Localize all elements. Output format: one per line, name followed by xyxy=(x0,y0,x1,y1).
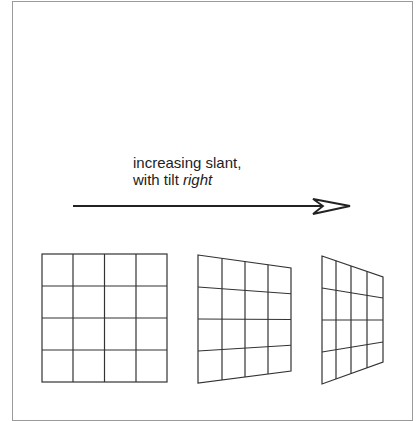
grid-moderate-slant xyxy=(198,255,291,383)
slant-arrow xyxy=(73,199,350,214)
grid-strong-slant xyxy=(322,256,383,384)
grid-frontal xyxy=(42,254,167,382)
